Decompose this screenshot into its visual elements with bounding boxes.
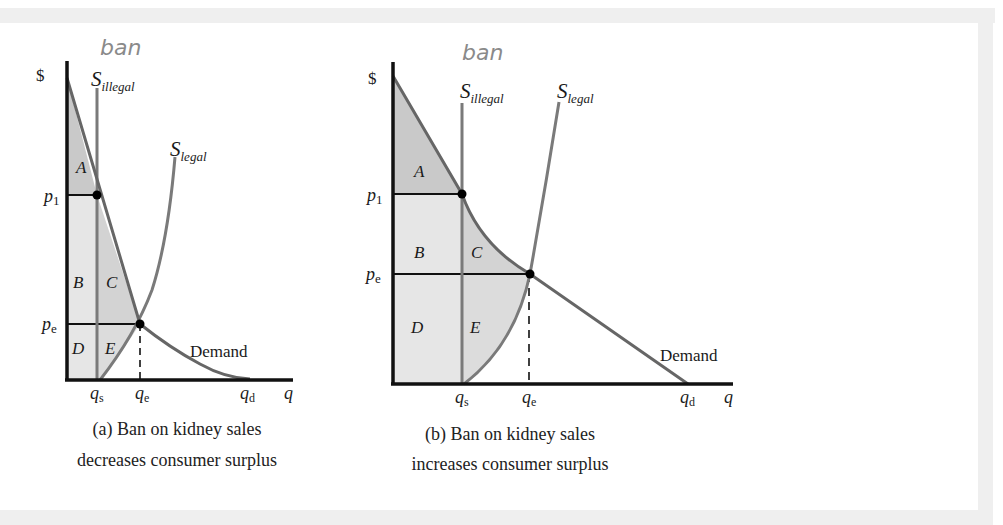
region-e-label: E — [104, 339, 116, 358]
region-d-label: D — [71, 339, 85, 358]
ban-point — [93, 191, 102, 200]
pe-label: pe — [364, 264, 381, 286]
panel-b: $ Sillegal Slegal ban p1 pe A B C D E De… — [364, 40, 733, 474]
qe-label: qe — [135, 383, 149, 405]
panel-a: $ Sillegal Slegal ban p1 pe A B C D E De… — [36, 35, 293, 470]
region-b-fill — [393, 194, 462, 274]
panel-b-caption-line-2: increases consumer surplus — [412, 454, 609, 474]
region-a-label: A — [413, 162, 425, 181]
supply-legal-label: Slegal — [557, 79, 594, 106]
supply-legal-label: Slegal — [170, 137, 207, 164]
supply-illegal-label: Sillegal — [91, 67, 135, 94]
region-b-label: B — [414, 243, 425, 262]
region-c-label: C — [106, 273, 118, 292]
y-axis-label: $ — [368, 69, 377, 88]
region-c-label: C — [471, 243, 483, 262]
ban-point — [458, 190, 467, 199]
equilibrium-point — [526, 270, 535, 279]
panel-a-caption-line-1: (a) Ban on kidney sales — [93, 419, 262, 440]
region-c-fill — [462, 194, 530, 274]
region-b-label: B — [73, 273, 84, 292]
panel-b-caption-line-1: (b) Ban on kidney sales — [425, 424, 595, 445]
qd-label: qd — [240, 383, 255, 405]
handwritten-ban-annotation: ban — [100, 35, 141, 60]
x-axis-label: q — [724, 387, 733, 407]
qe-label: qe — [522, 387, 536, 409]
x-axis-label: q — [284, 383, 293, 403]
kidney-market-figure: $ Sillegal Slegal ban p1 pe A B C D E De… — [0, 0, 1003, 525]
qd-label: qd — [680, 387, 695, 409]
demand-label: Demand — [660, 346, 718, 365]
supply-illegal-label: Sillegal — [460, 79, 504, 106]
qs-label: qs — [455, 387, 469, 409]
equilibrium-point — [136, 320, 145, 329]
region-d-fill — [393, 274, 462, 384]
p1-label: p1 — [365, 185, 383, 207]
pe-label: pe — [40, 314, 57, 336]
p1-label: p1 — [42, 186, 60, 208]
demand-label: Demand — [190, 342, 248, 361]
region-a-label: A — [75, 158, 87, 177]
region-e-label: E — [469, 318, 481, 337]
qs-label: qs — [90, 383, 104, 405]
region-d-label: D — [410, 318, 424, 337]
handwritten-ban-annotation: ban — [462, 40, 503, 65]
region-b-fill — [67, 195, 97, 324]
panel-a-caption-line-2: decreases consumer surplus — [77, 450, 277, 470]
y-axis-label: $ — [36, 66, 45, 85]
